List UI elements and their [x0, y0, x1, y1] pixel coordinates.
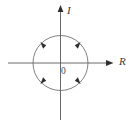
origin-label: 0	[61, 67, 66, 77]
figure-canvas	[0, 0, 132, 122]
imaginary-axis-label: I	[67, 5, 71, 16]
real-axis-arrowhead	[106, 60, 114, 66]
real-axis-label: R	[119, 56, 126, 67]
circle-direction-arrow-lower-right	[75, 77, 81, 84]
complex-plane-figure: I R 0	[0, 0, 132, 122]
circle-direction-arrow-lower-left	[40, 77, 46, 84]
circle-direction-arrow-upper-right	[75, 42, 81, 49]
imaginary-axis-arrowhead	[58, 5, 64, 12]
circle-direction-arrow-upper-left	[40, 42, 46, 49]
